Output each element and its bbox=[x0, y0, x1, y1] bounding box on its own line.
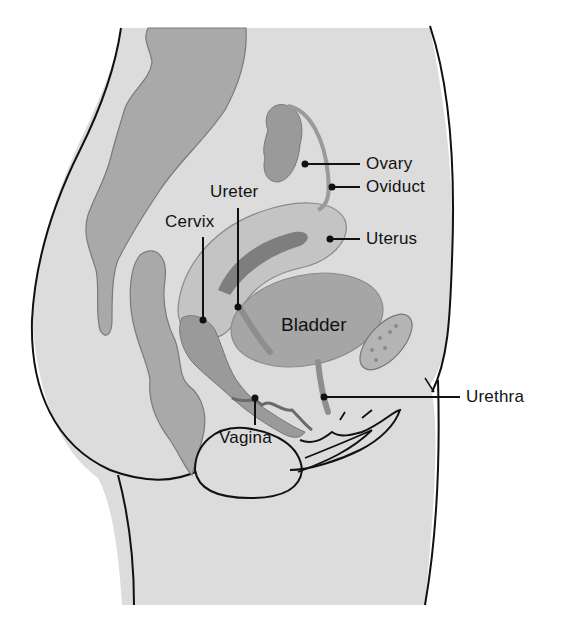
anatomy-diagram: Ovary Oviduct Ureter Cervix Uterus Bladd… bbox=[0, 0, 567, 632]
label-bladder: Bladder bbox=[281, 315, 347, 334]
label-cervix: Cervix bbox=[165, 213, 214, 230]
label-uterus: Uterus bbox=[366, 230, 417, 247]
label-oviduct: Oviduct bbox=[366, 178, 425, 195]
label-ovary: Ovary bbox=[366, 155, 412, 172]
label-urethra: Urethra bbox=[466, 388, 524, 405]
label-ureter: Ureter bbox=[210, 183, 258, 200]
label-vagina: Vagina bbox=[219, 429, 272, 446]
